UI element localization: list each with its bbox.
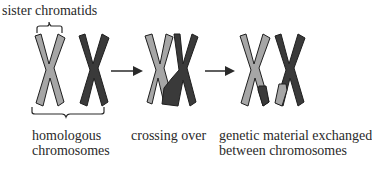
label-exchanged-line2: between chromosomes — [219, 143, 372, 158]
homologous-brace — [32, 107, 104, 117]
label-exchanged-line1: genetic material exchanged — [219, 128, 372, 143]
stage-homologous — [32, 22, 109, 117]
dark-chromosome — [79, 34, 109, 106]
label-homologous-line1: homologous — [32, 128, 110, 143]
label-homologous-chromosomes: homologous chromosomes — [32, 128, 110, 158]
stage-exchanged — [240, 34, 305, 106]
dark-chromosome-recombined — [275, 34, 305, 106]
label-genetic-exchange: genetic material exchanged between chrom… — [219, 128, 372, 158]
light-chromosome — [35, 34, 65, 106]
label-homologous-line2: chromosomes — [32, 143, 110, 158]
stage-crossing-over — [145, 34, 198, 106]
light-chromosome-recombined — [240, 34, 270, 106]
arrow-icon — [205, 66, 235, 76]
arrow-icon — [111, 66, 143, 76]
sister-chromatids-brace — [37, 22, 62, 33]
label-crossing-over: crossing over — [131, 128, 206, 143]
label-sister-chromatids: sister chromatids — [2, 3, 97, 18]
